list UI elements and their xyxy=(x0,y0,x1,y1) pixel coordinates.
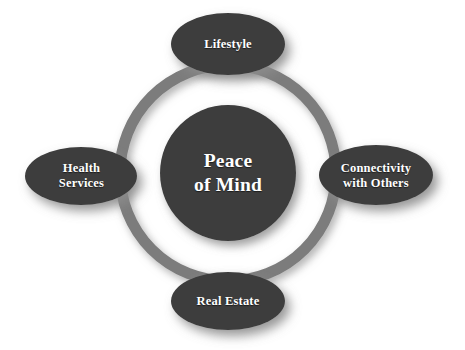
diagram-svg xyxy=(0,0,465,350)
node-shape-lifestyle[interactable] xyxy=(171,13,285,75)
node-shape-real-estate[interactable] xyxy=(171,272,285,330)
center-node-shape[interactable] xyxy=(160,105,296,241)
diagram-canvas: Peace of Mind Lifestyle Connectivity wit… xyxy=(0,0,465,350)
node-shape-connectivity-with-others[interactable] xyxy=(319,145,433,205)
node-shape-health-services[interactable] xyxy=(25,147,137,205)
